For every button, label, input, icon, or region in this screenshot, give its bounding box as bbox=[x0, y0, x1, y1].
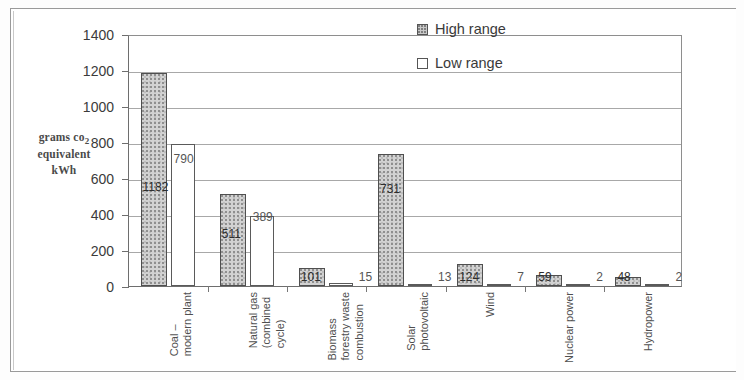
x-axis-category-labels: Coal – modern plantNatural gas (combined… bbox=[128, 292, 682, 378]
x-category-label-text: Natural gas (combined cycle) bbox=[247, 292, 287, 348]
plot-area: 118279051138910115731131247592482 bbox=[128, 35, 682, 287]
bar-high-range[interactable]: 124 bbox=[457, 264, 483, 286]
legend-item-high-range: High range bbox=[417, 12, 557, 46]
bar-high-range[interactable]: 101 bbox=[299, 268, 325, 286]
y-axis-title-line2: equivalent bbox=[37, 148, 90, 160]
gridline bbox=[129, 180, 681, 181]
high-range-swatch-icon bbox=[417, 24, 428, 35]
x-category-label: Nuclear power bbox=[521, 292, 605, 376]
y-tick-label: 800 bbox=[62, 136, 114, 150]
bar-high-range[interactable]: 731 bbox=[378, 154, 404, 286]
chart-screenshot: grams co2 equivalent kWh 140012001000800… bbox=[0, 0, 744, 380]
bar-low-range[interactable]: 2 bbox=[566, 284, 590, 286]
bar-value-label-high: 1182 bbox=[143, 181, 169, 193]
x-category-label: Solar photovoltaic bbox=[363, 292, 447, 376]
bar-value-label-high: 101 bbox=[301, 271, 321, 283]
bar-high-range[interactable]: 48 bbox=[615, 277, 641, 286]
chart-legend: High range Low range bbox=[417, 12, 557, 80]
y-tick-label: 1200 bbox=[62, 64, 114, 78]
legend-item-low-range: Low range bbox=[417, 46, 557, 80]
y-tick-label: 200 bbox=[62, 244, 114, 258]
bar-value-label-low: 13 bbox=[438, 271, 451, 283]
x-category-label: Wind bbox=[442, 292, 526, 376]
bar-low-range[interactable]: 13 bbox=[408, 284, 432, 286]
bar-high-range[interactable]: 1182 bbox=[141, 73, 167, 286]
bar-high-range[interactable]: 511 bbox=[220, 194, 246, 286]
y-tick-label: 600 bbox=[62, 172, 114, 186]
x-category-label-text: Solar photovoltaic bbox=[405, 292, 432, 351]
x-category-label-text: Biomass forestry waste combustion bbox=[326, 292, 366, 360]
bar-value-label-low: 15 bbox=[359, 271, 372, 283]
bar-value-label-high: 124 bbox=[459, 271, 479, 283]
legend-label-high-range: High range bbox=[435, 21, 506, 37]
bar-value-label-low: 7 bbox=[517, 271, 524, 283]
y-tick-label: 400 bbox=[62, 208, 114, 222]
bar-value-label-high: 511 bbox=[222, 228, 241, 240]
x-category-label-text: Wind bbox=[484, 292, 497, 317]
gridline bbox=[129, 72, 681, 73]
y-tick-label: 1000 bbox=[62, 100, 114, 114]
x-category-label-text: Hydropower bbox=[642, 292, 655, 351]
gridline bbox=[129, 144, 681, 145]
gridline bbox=[129, 108, 681, 109]
x-category-label-text: Nuclear power bbox=[563, 292, 576, 363]
bar-low-range[interactable]: 790 bbox=[171, 144, 195, 286]
y-tick-label: 0 bbox=[62, 280, 114, 294]
legend-label-low-range: Low range bbox=[435, 55, 503, 71]
x-category-label: Coal – modern plant bbox=[126, 292, 210, 376]
bar-low-range[interactable]: 2 bbox=[645, 284, 669, 286]
y-tick-label: 1400 bbox=[62, 28, 114, 42]
bar-value-label-high: 59 bbox=[538, 271, 551, 283]
y-tick-mark bbox=[122, 287, 129, 288]
low-range-swatch-icon bbox=[417, 58, 428, 69]
bar-high-range[interactable]: 59 bbox=[536, 275, 562, 286]
x-category-label: Biomass forestry waste combustion bbox=[284, 292, 368, 376]
bar-value-label-high: 48 bbox=[617, 271, 630, 283]
bar-low-range[interactable]: 389 bbox=[250, 216, 274, 286]
x-category-label-text: Coal – modern plant bbox=[168, 292, 195, 356]
bar-low-range[interactable]: 7 bbox=[487, 284, 511, 286]
bar-value-label-low: 2 bbox=[675, 271, 682, 283]
bar-value-label-low: 790 bbox=[174, 153, 194, 165]
bar-value-label-low: 389 bbox=[253, 211, 273, 223]
bar-value-label-low: 2 bbox=[596, 271, 603, 283]
gridline bbox=[129, 252, 681, 253]
x-category-label: Hydropower bbox=[600, 292, 684, 376]
gridline bbox=[129, 216, 681, 217]
bar-value-label-high: 731 bbox=[380, 183, 400, 195]
x-category-label: Natural gas (combined cycle) bbox=[205, 292, 289, 376]
bar-low-range[interactable]: 15 bbox=[329, 283, 353, 286]
